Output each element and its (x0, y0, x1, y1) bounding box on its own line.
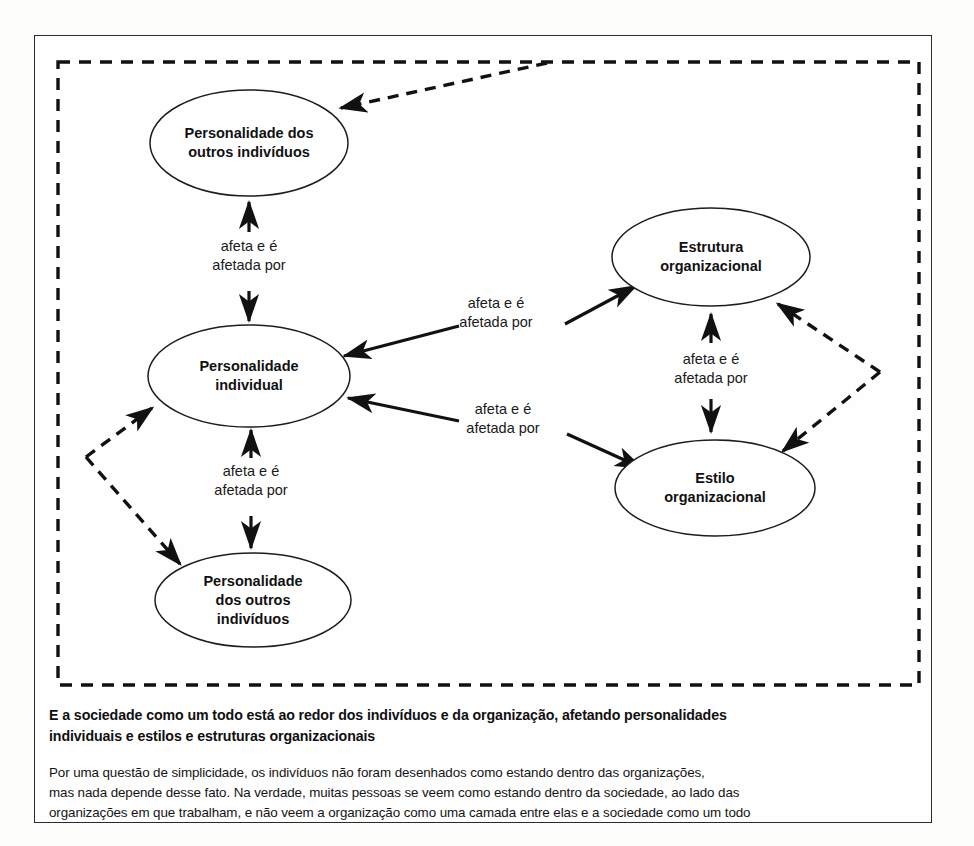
node-estilo-organizacional[interactable]: Estilo organizacional (615, 440, 815, 536)
caption-body-line-3: organizações em que trabalham, e não vee… (49, 803, 919, 823)
edge-label-baixo-esquerda: afeta e é afetada por (214, 463, 288, 498)
node-label-line-2: organizacional (660, 258, 762, 274)
dashed-arrow-sociedade-para-personalidade-outros-topo (341, 63, 547, 108)
node-label-line-1: Personalidade (203, 573, 302, 589)
edge-label-topo-esquerda: afeta e é afetada por (212, 238, 286, 273)
edge-label-line-2: afetada por (214, 482, 288, 498)
node-label-line-2: organizacional (664, 489, 766, 505)
edge-label-cruzado-inferior: afeta e é afetada por (466, 401, 540, 436)
node-personalidade-individual[interactable]: Personalidade individual (148, 325, 350, 427)
node-personalidade-outros-baixo[interactable]: Personalidade dos outros indivíduos (155, 553, 351, 647)
node-label-line-2: outros indivíduos (188, 144, 310, 160)
page-canvas: Personalidade dos outros indivíduos Pers… (0, 0, 974, 846)
node-ellipse (615, 440, 815, 536)
caption-bold-line-1: E a sociedade como um todo está ao redor… (49, 705, 919, 726)
node-label-line-1: Personalidade dos (185, 125, 314, 141)
caption-bold-text: E a sociedade como um todo está ao redor… (49, 705, 919, 746)
edge-label-line-1: afeta e é (223, 463, 279, 479)
arrow-estrutura-para-individual (344, 326, 459, 356)
edge-label-line-1: afeta e é (683, 351, 739, 367)
node-label-line-1: Estilo (695, 470, 735, 486)
figure-frame: Personalidade dos outros indivíduos Pers… (34, 35, 932, 823)
node-estrutura-organizacional[interactable]: Estrutura organizacional (612, 208, 810, 306)
caption-bold-line-2: individuais e estilos e estruturas organ… (49, 726, 919, 747)
node-label-line-1: Estrutura (679, 239, 744, 255)
node-label-line-2: individual (215, 377, 283, 393)
dashed-arrow-sociedade-para-estrutura (778, 304, 880, 372)
caption-body-text: Por uma questão de simplicidade, os indi… (49, 763, 919, 822)
caption-body-line-1: Por uma questão de simplicidade, os indi… (49, 763, 919, 783)
edge-label-line-1: afeta e é (468, 295, 524, 311)
edge-label-line-2: afetada por (212, 257, 286, 273)
edge-label-line-2: afetada por (459, 314, 533, 330)
diagram-area: Personalidade dos outros indivíduos Pers… (35, 36, 933, 692)
edge-label-direita-central: afeta e é afetada por (674, 351, 748, 386)
edge-label-line-1: afeta e é (221, 238, 277, 254)
caption-body-line-2: mas nada depende desse fato. Na verdade,… (49, 783, 919, 803)
edge-label-line-1: afeta e é (475, 401, 531, 417)
dashed-arrow-sociedade-para-personalidade-individual (86, 408, 152, 457)
node-ellipse (612, 208, 810, 306)
node-ellipse (148, 325, 350, 427)
arrow-estilo-para-individual (348, 398, 459, 421)
node-label-line-2: dos outros (216, 592, 291, 608)
node-ellipse (150, 90, 348, 196)
relationship-diagram-svg: Personalidade dos outros indivíduos Pers… (35, 36, 933, 692)
caption-block: E a sociedade como um todo está ao redor… (35, 692, 933, 824)
node-label-line-1: Personalidade (199, 358, 298, 374)
edge-label-line-2: afetada por (674, 370, 748, 386)
arrow-individual-para-estrutura (565, 286, 636, 324)
dashed-arrow-sociedade-para-estilo (783, 372, 880, 451)
edge-label-cruzado-superior: afeta e é afetada por (459, 295, 533, 330)
edge-label-line-2: afetada por (466, 420, 540, 436)
node-label-line-3: indivíduos (217, 611, 290, 627)
node-personalidade-outros-topo[interactable]: Personalidade dos outros indivíduos (150, 90, 348, 196)
dashed-arrow-sociedade-para-personalidade-outros-baixo (86, 457, 180, 564)
